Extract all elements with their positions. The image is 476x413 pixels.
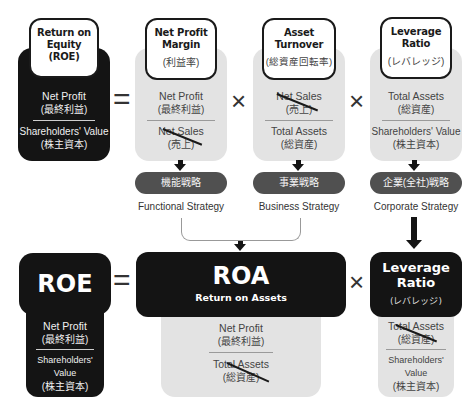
lr-title-card: Leverage Ratio (レバレッジ) bbox=[380, 17, 452, 79]
at-denominator-en: Total Assets bbox=[253, 125, 345, 138]
npm-title-line1: Net Profit bbox=[147, 27, 215, 39]
strategy-caption-functional: Functional Strategy bbox=[120, 201, 242, 212]
fraction-line bbox=[36, 349, 94, 350]
at-denominator: Total Assets (総資産) bbox=[253, 125, 345, 151]
lr-title-line2: Ratio bbox=[382, 38, 450, 50]
multiply-sign: × bbox=[349, 86, 364, 116]
roe-bottom-denominator-en: Shareholders' Value bbox=[26, 354, 104, 380]
at-denominator-jp: (総資産) bbox=[253, 138, 345, 151]
fraction-line bbox=[386, 349, 446, 350]
fraction-line bbox=[382, 120, 450, 121]
lr-bottom-denominator: Shareholders' Value (株主資本) bbox=[378, 354, 454, 393]
npm-title-line2: Margin bbox=[147, 39, 215, 51]
roe-title-line1: Return on bbox=[31, 27, 97, 39]
roe-numerator: Net Profit (最終利益) bbox=[18, 90, 110, 116]
strategy-pill-functional: 機能戦略 bbox=[135, 172, 227, 194]
fraction-line bbox=[147, 120, 215, 121]
strategy-caption-corporate: Corporate Strategy bbox=[355, 201, 476, 212]
lr-bottom-subtitle-jp: (レバレッジ) bbox=[370, 294, 462, 307]
arrow-down-icon bbox=[234, 244, 246, 251]
at-title-line2: Turnover bbox=[264, 39, 334, 51]
npm-title-card: Net Profit Margin (利益率) bbox=[145, 18, 217, 80]
roe-denominator-jp: (株主資本) bbox=[18, 138, 110, 151]
connector-bracket bbox=[181, 218, 301, 241]
lr-bottom-denominator-en: Shareholders' Value bbox=[378, 354, 454, 380]
arrow-down-icon bbox=[292, 164, 304, 171]
lr-numerator: Total Assets (総資産) bbox=[370, 90, 462, 116]
roe-bottom-fraction: Net Profit (最終利益) Shareholders' Value (株… bbox=[26, 300, 104, 397]
roe-numerator-jp: (最終利益) bbox=[18, 103, 110, 116]
lr-subtitle-jp: (レバレッジ) bbox=[382, 53, 450, 68]
lr-numerator-jp: (総資産) bbox=[370, 103, 462, 116]
roe-bottom-numerator-en: Net Profit bbox=[26, 320, 104, 333]
arrow-down-icon bbox=[174, 164, 186, 171]
npm-numerator-en: Net Profit bbox=[135, 90, 227, 103]
npm-numerator: Net Profit (最終利益) bbox=[135, 90, 227, 116]
npm-subtitle-jp: (利益率) bbox=[147, 54, 215, 69]
roe-bottom-title: ROE bbox=[19, 270, 111, 298]
roe-denominator: Shareholders' Value (株主資本) bbox=[18, 125, 110, 151]
at-subtitle-jp: (総資産回転率) bbox=[264, 54, 334, 68]
roa-denominator-jp: (総資産) bbox=[161, 371, 321, 384]
roe-denominator-en: Shareholders' Value bbox=[18, 125, 110, 138]
lr-numerator-en: Total Assets bbox=[370, 90, 462, 103]
roa-title: ROA bbox=[136, 262, 346, 290]
roa-denominator: Total Assets (総資産) bbox=[161, 358, 321, 384]
arrow-stem bbox=[411, 217, 417, 241]
lr-bottom-title-line2: Ratio bbox=[370, 275, 462, 290]
npm-denominator-jp: (売上) bbox=[135, 138, 227, 151]
roa-numerator: Net Profit (最終利益) bbox=[161, 322, 321, 348]
fraction-line bbox=[265, 120, 333, 121]
fraction-line bbox=[33, 120, 95, 121]
npm-numerator-jp: (最終利益) bbox=[135, 103, 227, 116]
fraction-line bbox=[209, 352, 273, 353]
roe-title-line3: (ROE) bbox=[31, 51, 97, 63]
lr-denominator-en: Shareholders' Value bbox=[370, 125, 462, 138]
roe-title-line2: Equity bbox=[31, 39, 97, 51]
equals-sign: = bbox=[113, 265, 131, 295]
roa-numerator-jp: (最終利益) bbox=[161, 335, 321, 348]
roe-bottom-numerator: Net Profit (最終利益) bbox=[26, 320, 104, 346]
multiply-sign: × bbox=[349, 267, 364, 297]
lr-title-line1: Leverage bbox=[382, 26, 450, 38]
roa-numerator-en: Net Profit bbox=[161, 322, 321, 335]
arrow-down-icon bbox=[408, 164, 420, 171]
lr-denominator-jp: (株主資本) bbox=[370, 138, 462, 151]
at-title-card: Asset Turnover (総資産回転率) bbox=[262, 18, 336, 80]
strategy-pill-business: 事業戦略 bbox=[253, 172, 345, 194]
lr-bottom-numerator-jp: (総資産) bbox=[378, 333, 454, 346]
roe-title-card: Return on Equity (ROE) bbox=[29, 18, 99, 78]
npm-denominator: Net Sales (売上) bbox=[135, 125, 227, 151]
roa-subtitle: Return on Assets bbox=[136, 292, 346, 303]
strategy-pill-corporate: 企業(全社)戦略 bbox=[370, 172, 462, 194]
roe-bottom-numerator-jp: (最終利益) bbox=[26, 333, 104, 346]
strategy-caption-business: Business Strategy bbox=[238, 201, 360, 212]
lr-bottom-title-line1: Leverage bbox=[370, 260, 462, 275]
roe-bottom-denominator-jp: (株主資本) bbox=[26, 380, 104, 393]
lr-bottom-denominator-jp: (株主資本) bbox=[378, 380, 454, 393]
at-numerator-jp: (売上) bbox=[253, 103, 345, 116]
roa-title-panel: ROA Return on Assets bbox=[136, 252, 346, 317]
multiply-sign: × bbox=[231, 86, 246, 116]
arrow-down-icon bbox=[406, 240, 422, 249]
lr-bottom-title-panel: Leverage Ratio (レバレッジ) bbox=[370, 252, 462, 317]
roe-numerator-en: Net Profit bbox=[18, 90, 110, 103]
at-title-line1: Asset bbox=[264, 27, 334, 39]
lr-denominator: Shareholders' Value (株主資本) bbox=[370, 125, 462, 151]
roe-bottom-denominator: Shareholders' Value (株主資本) bbox=[26, 354, 104, 393]
equals-sign: = bbox=[113, 84, 131, 114]
